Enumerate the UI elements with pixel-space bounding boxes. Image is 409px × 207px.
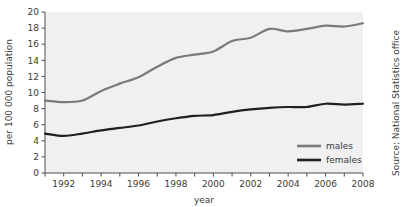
line-chart: 02468101214161820 1992199419961998200020… bbox=[0, 0, 409, 207]
x-axis-tick-label: 2008 bbox=[352, 179, 375, 189]
y-axis-tick-label: 8 bbox=[33, 104, 39, 114]
y-axis-tick-label: 18 bbox=[28, 23, 40, 33]
plot-area-background bbox=[45, 12, 363, 173]
chart-figure: 02468101214161820 1992199419961998200020… bbox=[0, 0, 409, 207]
legend-label-females: females bbox=[326, 155, 362, 165]
x-axis-tick-label: 1998 bbox=[164, 179, 187, 189]
x-axis-tick-label: 1996 bbox=[127, 179, 150, 189]
x-axis-tick-label: 2004 bbox=[277, 179, 300, 189]
x-axis-title: year bbox=[194, 195, 214, 205]
y-axis-tick-label: 20 bbox=[28, 7, 40, 17]
y-axis-tick-label: 12 bbox=[28, 72, 39, 82]
x-axis-tick-label: 2000 bbox=[202, 179, 225, 189]
x-axis: 199219941996199820002002200420062008 bbox=[45, 173, 375, 189]
y-axis-tick-label: 16 bbox=[28, 39, 40, 49]
x-axis-tick-label: 2002 bbox=[239, 179, 262, 189]
y-axis-tick-label: 14 bbox=[28, 56, 40, 66]
legend-label-males: males bbox=[326, 141, 353, 151]
y-axis-tick-label: 4 bbox=[33, 136, 39, 146]
y-axis-title: per 100 000 population bbox=[4, 39, 14, 145]
y-axis-tick-label: 6 bbox=[33, 120, 39, 130]
x-axis-tick-label: 1994 bbox=[90, 179, 113, 189]
y-axis-tick-label: 10 bbox=[28, 88, 40, 98]
y-axis-tick-label: 2 bbox=[33, 152, 39, 162]
y-axis-tick-label: 0 bbox=[33, 168, 39, 178]
x-axis-tick-label: 1992 bbox=[52, 179, 75, 189]
y-axis: 02468101214161820 bbox=[28, 7, 45, 178]
source-note: Source: National Statistics office bbox=[391, 30, 401, 176]
x-axis-tick-label: 2006 bbox=[314, 179, 337, 189]
